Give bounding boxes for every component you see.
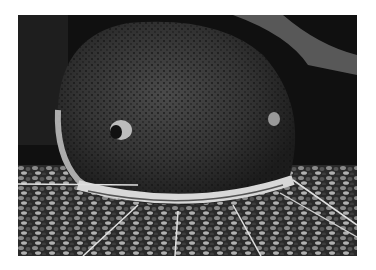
catfish-illustration — [18, 15, 357, 256]
catfish-photo: Close-up grayscale photograph of a catfi… — [18, 15, 357, 256]
